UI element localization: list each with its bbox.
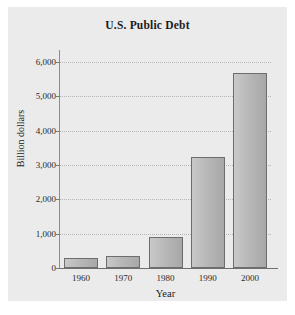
x-axis-tick-label: 1980 <box>143 273 189 283</box>
y-axis-tick-mark <box>56 234 60 235</box>
x-axis-tick-label: 2000 <box>227 273 273 283</box>
y-axis-tick-mark <box>56 165 60 166</box>
y-axis-tick-mark <box>56 62 60 63</box>
y-axis-tick-label: 0 <box>12 263 56 273</box>
x-axis-tick-label: 1970 <box>100 273 146 283</box>
y-axis-tick-mark <box>56 199 60 200</box>
plot-area <box>60 62 271 268</box>
chart-title: U.S. Public Debt <box>8 19 287 31</box>
bar-1970 <box>106 256 140 268</box>
y-axis-tick-mark <box>56 131 60 132</box>
bar-1980 <box>149 237 183 268</box>
y-axis-tick-labels: 01,0002,0003,0004,0005,0006,000 <box>8 62 56 268</box>
y-axis-tick-label: 4,000 <box>12 126 56 136</box>
chart-figure: U.S. Public Debt Billion dollars 01,0002… <box>8 7 287 301</box>
y-axis-tick-mark <box>56 96 60 97</box>
bar-1960 <box>64 258 98 268</box>
x-axis-tick-label: 1990 <box>185 273 231 283</box>
bar-1990 <box>191 157 225 268</box>
x-axis-line <box>59 268 278 269</box>
y-axis-tick-mark <box>56 268 60 269</box>
y-axis-tick-label: 5,000 <box>12 91 56 101</box>
bar-2000 <box>233 73 267 268</box>
y-axis-tick-label: 2,000 <box>12 194 56 204</box>
x-axis-tick-label: 1960 <box>58 273 104 283</box>
x-axis-title: Year <box>60 288 271 299</box>
y-axis-tick-label: 3,000 <box>12 160 56 170</box>
y-axis-tick-label: 6,000 <box>12 57 56 67</box>
y-axis-tick-label: 1,000 <box>12 229 56 239</box>
gridline <box>60 62 271 63</box>
